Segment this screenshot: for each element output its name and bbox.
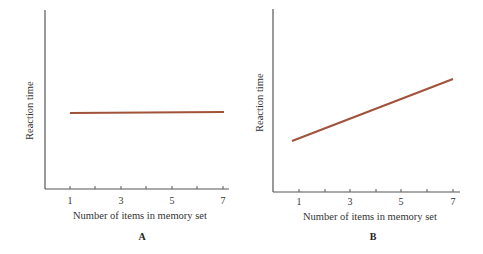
x-tick-label: 7: [221, 195, 226, 206]
panel-label-a: A: [138, 231, 146, 242]
y-axis-label: Reaction time: [24, 81, 35, 140]
x-tick-label: 3: [119, 195, 124, 206]
x-tick-label: 5: [399, 196, 404, 207]
chart-panel-b: 1 3 5 7 Reaction time Number of items in…: [254, 9, 460, 242]
series-line-a: [70, 112, 224, 113]
figure: 1 3 5 7 Reaction time Number of items in…: [0, 0, 483, 254]
y-axis-label: Reaction time: [254, 73, 265, 132]
x-tick-label: 1: [297, 196, 302, 207]
x-tick-label: 1: [68, 195, 73, 206]
x-tick-label: 5: [170, 195, 175, 206]
x-tick-label: 3: [348, 196, 353, 207]
series-line-b: [292, 79, 453, 141]
x-axis-label: Number of items in memory set: [73, 210, 207, 221]
x-axis-label: Number of items in memory set: [303, 211, 437, 222]
chart-panel-a: 1 3 5 7 Reaction time Number of items in…: [24, 10, 229, 242]
x-tick-label: 7: [451, 196, 456, 207]
panel-label-b: B: [370, 231, 377, 242]
